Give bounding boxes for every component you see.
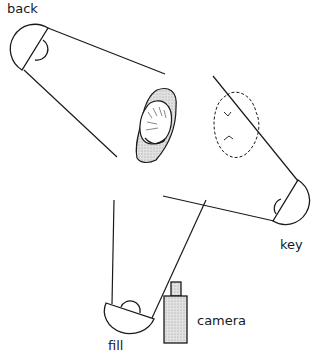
fill-light-label: fill [108,339,123,352]
key-light [273,180,310,225]
camera-label: camera [197,314,246,327]
key-beam-lower [163,196,274,221]
subject-head [136,89,176,163]
back-beam-lower [24,70,117,157]
back-beam-upper [48,28,165,74]
camera [164,282,187,343]
lighting-diagram [0,0,323,362]
back-light-label: back [7,2,38,15]
shadow-detail [224,112,233,140]
fill-beam-left [112,200,114,304]
back-light [10,24,48,70]
fill-light [104,301,154,334]
key-beam-upper [213,76,298,181]
key-light-label: key [280,238,303,251]
